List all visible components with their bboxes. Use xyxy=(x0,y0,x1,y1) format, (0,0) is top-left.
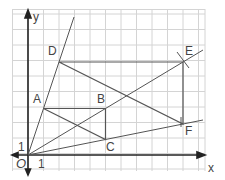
y-unit-label: 1 xyxy=(18,140,25,154)
origin-label: O xyxy=(16,156,26,171)
rays xyxy=(28,17,203,155)
y-axis-arrow-icon xyxy=(25,10,31,18)
labels: y x O 1 1 A B C D E F xyxy=(16,10,214,175)
point-f-label: F xyxy=(185,124,192,138)
ray-OB xyxy=(28,50,203,155)
point-b-label: B xyxy=(97,92,105,106)
point-a-label: A xyxy=(33,92,41,106)
enlargement-diagram: y x O 1 1 A B C D E F xyxy=(0,0,225,180)
y-axis-label: y xyxy=(33,10,39,24)
x-axis-arrow-icon xyxy=(197,152,205,158)
point-d-label: D xyxy=(48,44,57,58)
point-c-label: C xyxy=(106,140,115,154)
ray-OA xyxy=(28,17,74,155)
y-axis-down-arrow-icon xyxy=(26,169,31,175)
point-e-label: E xyxy=(185,44,193,58)
x-unit-label: 1 xyxy=(38,157,45,171)
x-axis-label: x xyxy=(208,161,214,175)
